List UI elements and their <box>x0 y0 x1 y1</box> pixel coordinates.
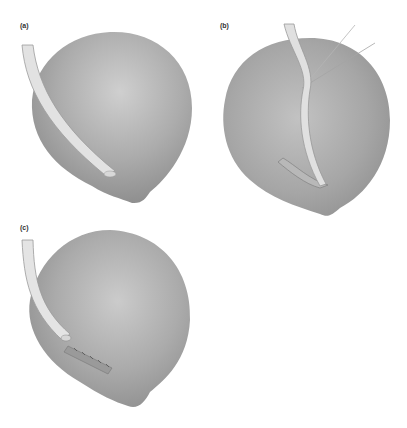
organ-illustration-b <box>210 0 407 225</box>
panel-b: (b) <box>210 0 407 225</box>
organ-illustration-a <box>0 0 210 215</box>
panel-a: (a) <box>0 0 210 215</box>
organ-illustration-c <box>0 210 210 428</box>
panel-c: (c) <box>0 210 210 428</box>
